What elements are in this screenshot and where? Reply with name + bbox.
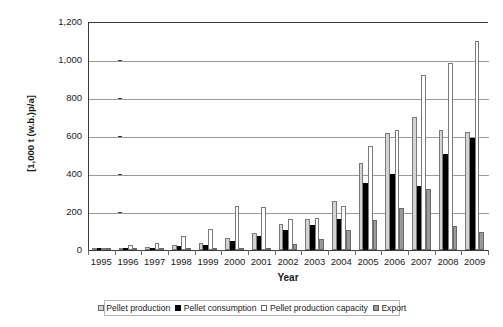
bar-group-2002 xyxy=(275,22,302,250)
x-tick-label-2003: 2003 xyxy=(301,256,328,267)
y-tick-label-600: 600 xyxy=(36,131,82,141)
gray-square-icon xyxy=(373,305,379,311)
x-tick-label-2004: 2004 xyxy=(328,256,355,267)
legend-item-pellet-consumption[interactable]: Pellet consumption xyxy=(175,303,256,313)
chart-legend: Pellet productionPellet consumptionPelle… xyxy=(104,300,400,316)
bar-group-2001 xyxy=(248,22,275,250)
x-tick-mark-14 xyxy=(461,250,462,255)
white-square-icon xyxy=(261,305,267,311)
bar-2006-series-3 xyxy=(399,208,404,250)
x-tick-mark-15 xyxy=(488,250,489,255)
x-tick-mark-11 xyxy=(381,250,382,255)
bar-2005-series-3 xyxy=(373,220,378,250)
x-tick-mark-7 xyxy=(275,250,276,255)
x-tick-mark-9 xyxy=(328,250,329,255)
legend-label: Export xyxy=(381,303,406,313)
bar-2000-series-2 xyxy=(235,206,240,250)
x-tick-label-1999: 1999 xyxy=(195,256,222,267)
bar-2008-series-3 xyxy=(453,226,458,250)
bar-2003-series-3 xyxy=(319,239,324,250)
bar-group-1997 xyxy=(141,22,168,250)
bar-2009-series-3 xyxy=(479,232,484,250)
x-tick-mark-4 xyxy=(195,250,196,255)
y-tick-label-800: 800 xyxy=(36,93,82,103)
bar-group-2007 xyxy=(408,22,435,250)
light-gray-square-icon xyxy=(98,305,104,311)
legend-label: Pellet production xyxy=(106,303,170,313)
x-tick-label-2006: 2006 xyxy=(381,256,408,267)
bar-group-1999 xyxy=(195,22,222,250)
legend-label: Pellet consumption xyxy=(184,303,257,313)
y-tick-label-0: 0 xyxy=(36,245,82,255)
x-tick-label-2007: 2007 xyxy=(408,256,435,267)
x-axis-title: Year xyxy=(88,272,488,283)
legend-item-pellet-production-capacity[interactable]: Pellet production capacity xyxy=(261,303,367,313)
x-tick-mark-13 xyxy=(435,250,436,255)
bar-2007-series-3 xyxy=(426,189,431,250)
bar-2001-series-2 xyxy=(261,207,266,250)
bar-group-1998 xyxy=(168,22,195,250)
x-tick-label-2009: 2009 xyxy=(461,256,488,267)
y-tick-label-1200: 1,200 xyxy=(36,17,82,27)
x-tick-mark-2 xyxy=(141,250,142,255)
y-axis-ticks: 02004006008001,0001,200 xyxy=(34,0,82,327)
bar-group-2003 xyxy=(301,22,328,250)
x-tick-mark-3 xyxy=(168,250,169,255)
x-tick-label-2000: 2000 xyxy=(221,256,248,267)
bar-2004-series-3 xyxy=(346,230,351,250)
bar-group-2008 xyxy=(435,22,462,250)
bar-groups xyxy=(88,22,488,250)
chart-figure: [1,000 t (w.b.)p/a] 02004006008001,0001,… xyxy=(0,0,503,327)
y-tick-label-400: 400 xyxy=(36,169,82,179)
x-tick-label-2002: 2002 xyxy=(275,256,302,267)
black-square-icon xyxy=(175,305,181,311)
x-tick-mark-6 xyxy=(248,250,249,255)
x-tick-label-1996: 1996 xyxy=(115,256,142,267)
x-axis-tick-labels: 1995199619971998199920002001200220032004… xyxy=(88,256,488,270)
bar-group-2000 xyxy=(221,22,248,250)
bar-group-2005 xyxy=(355,22,382,250)
x-axis-tickmarks xyxy=(88,250,488,255)
x-tick-mark-0 xyxy=(88,250,89,255)
legend-item-pellet-production[interactable]: Pellet production xyxy=(98,303,171,313)
legend-label: Pellet production capacity xyxy=(270,303,368,313)
x-tick-label-2001: 2001 xyxy=(248,256,275,267)
bar-2008-series-2 xyxy=(448,63,453,250)
x-tick-mark-12 xyxy=(408,250,409,255)
legend-item-export[interactable]: Export xyxy=(373,303,406,313)
y-tick-label-1000: 1,000 xyxy=(36,55,82,65)
bar-group-2009 xyxy=(461,22,488,250)
x-tick-label-2005: 2005 xyxy=(355,256,382,267)
x-tick-mark-8 xyxy=(301,250,302,255)
x-tick-mark-1 xyxy=(115,250,116,255)
x-tick-label-1997: 1997 xyxy=(141,256,168,267)
bar-1999-series-2 xyxy=(208,229,213,250)
x-tick-label-2008: 2008 xyxy=(435,256,462,267)
x-tick-label-1998: 1998 xyxy=(168,256,195,267)
bar-group-2004 xyxy=(328,22,355,250)
y-tick-label-200: 200 xyxy=(36,207,82,217)
bar-group-1995 xyxy=(88,22,115,250)
x-tick-mark-5 xyxy=(221,250,222,255)
x-tick-mark-10 xyxy=(355,250,356,255)
bar-2009-series-2 xyxy=(475,41,480,250)
bar-group-2006 xyxy=(381,22,408,250)
bar-group-1996 xyxy=(115,22,142,250)
x-tick-label-1995: 1995 xyxy=(88,256,115,267)
